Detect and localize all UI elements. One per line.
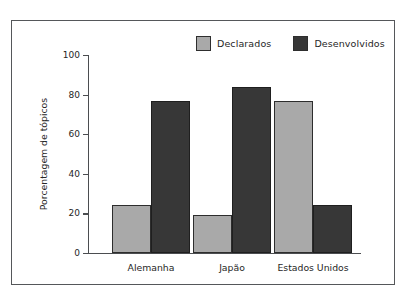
bar-japão-desenvolvidos	[232, 87, 271, 253]
bar-chart-figure: Declarados Desenvolvidos Porcentagem de …	[0, 0, 412, 302]
bar-estados-unidos-desenvolvidos	[313, 205, 352, 253]
bar-alemanha-desenvolvidos	[151, 101, 190, 253]
legend-label-declarados: Declarados	[217, 38, 271, 49]
y-tick-label: 80	[69, 90, 80, 100]
y-tick-mark	[83, 95, 88, 96]
y-axis-line	[88, 55, 89, 253]
y-tick-label: 0	[74, 248, 80, 258]
y-tick-mark	[83, 134, 88, 135]
bar-estados-unidos-declarados	[274, 101, 313, 253]
bar-alemanha-declarados	[112, 205, 151, 253]
chart-legend: Declarados Desenvolvidos	[196, 35, 385, 51]
legend-label-desenvolvidos: Desenvolvidos	[314, 38, 384, 49]
y-tick-mark	[83, 213, 88, 214]
legend-swatch-declarados-icon	[196, 36, 211, 51]
y-tick-label: 20	[69, 208, 80, 218]
y-tick-label: 40	[69, 169, 80, 179]
y-axis-label: Porcentagem de tópicos	[36, 55, 50, 253]
category-label-estados-unidos: Estados Unidos	[277, 262, 348, 273]
y-tick-mark	[83, 55, 88, 56]
plot-area: 020406080100	[88, 55, 361, 253]
legend-swatch-desenvolvidos-icon	[293, 36, 308, 51]
legend-entry-declarados: Declarados	[196, 36, 271, 51]
category-label-alemanha: Alemanha	[128, 262, 175, 273]
x-axis-line	[88, 253, 361, 254]
y-tick-label: 60	[69, 129, 80, 139]
bar-japão-declarados	[193, 215, 232, 253]
category-label-japão: Japão	[219, 262, 245, 273]
legend-entry-desenvolvidos: Desenvolvidos	[293, 36, 384, 51]
y-tick-mark	[83, 174, 88, 175]
y-tick-label: 100	[63, 50, 80, 60]
y-tick-mark	[83, 253, 88, 254]
